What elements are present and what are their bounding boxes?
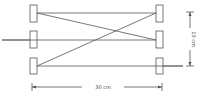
horizontal-dimension: 30 cm bbox=[32, 83, 162, 91]
line-top-to-middle-diagonal bbox=[37, 13, 156, 40]
setup-diagram: 30 cm 10 cm bbox=[0, 0, 203, 103]
horizontal-dimension-label: 30 cm bbox=[95, 84, 111, 90]
left-middle-box bbox=[30, 31, 37, 48]
left-bottom-box bbox=[30, 58, 37, 74]
vertical-dimension-label: 10 cm bbox=[191, 31, 197, 47]
line-bottom-to-top-diagonal bbox=[37, 13, 156, 66]
right-middle-box bbox=[156, 31, 163, 48]
left-top-box bbox=[30, 5, 37, 22]
right-top-box bbox=[156, 5, 163, 22]
vertical-dimension: 10 cm bbox=[186, 12, 197, 66]
